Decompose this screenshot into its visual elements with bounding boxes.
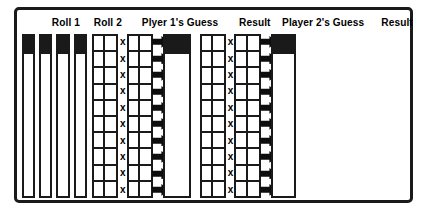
worksheet-cell[interactable] bbox=[236, 166, 247, 182]
worksheet-cell[interactable] bbox=[105, 36, 116, 52]
player-2-guess-left-grid[interactable] bbox=[200, 34, 227, 198]
worksheet-cell[interactable] bbox=[140, 133, 151, 149]
worksheet-cell[interactable] bbox=[105, 133, 116, 149]
worksheet-cell[interactable] bbox=[94, 101, 105, 117]
worksheet-cell[interactable] bbox=[248, 101, 259, 117]
worksheet-cell[interactable] bbox=[94, 36, 105, 52]
worksheet-cell[interactable] bbox=[202, 52, 213, 68]
worksheet-cell[interactable] bbox=[94, 166, 105, 182]
worksheet-cell[interactable] bbox=[248, 182, 259, 196]
worksheet-cell[interactable] bbox=[236, 101, 247, 117]
worksheet-cell[interactable] bbox=[202, 166, 213, 182]
worksheet-cell[interactable] bbox=[129, 133, 140, 149]
worksheet-cell[interactable] bbox=[236, 149, 247, 165]
worksheet-cell[interactable] bbox=[248, 117, 259, 133]
worksheet-cell[interactable] bbox=[202, 149, 213, 165]
worksheet-cell[interactable] bbox=[248, 149, 259, 165]
worksheet-cell[interactable] bbox=[236, 133, 247, 149]
roll-2-column-a[interactable] bbox=[56, 34, 69, 198]
worksheet-cell[interactable] bbox=[202, 133, 213, 149]
worksheet-cell[interactable] bbox=[236, 68, 247, 84]
worksheet-cell[interactable] bbox=[105, 117, 116, 133]
worksheet-cell[interactable] bbox=[24, 52, 33, 54]
worksheet-cell[interactable] bbox=[140, 36, 151, 52]
worksheet-cell[interactable] bbox=[76, 52, 85, 54]
worksheet-cell[interactable] bbox=[94, 133, 105, 149]
worksheet-cell[interactable] bbox=[129, 68, 140, 84]
worksheet-cell[interactable] bbox=[94, 85, 105, 101]
worksheet-cell[interactable] bbox=[213, 149, 224, 165]
worksheet-cell[interactable] bbox=[94, 149, 105, 165]
worksheet-cell[interactable] bbox=[105, 85, 116, 101]
worksheet-cell[interactable] bbox=[105, 182, 116, 196]
worksheet-cell[interactable] bbox=[248, 166, 259, 182]
worksheet-cell[interactable] bbox=[248, 52, 259, 68]
worksheet-cell[interactable] bbox=[213, 101, 224, 117]
worksheet-cell[interactable] bbox=[129, 36, 140, 52]
worksheet-cell[interactable] bbox=[140, 68, 151, 84]
worksheet-cell[interactable] bbox=[213, 166, 224, 182]
worksheet-cell[interactable] bbox=[129, 117, 140, 133]
worksheet-cell[interactable] bbox=[129, 182, 140, 196]
worksheet-cell[interactable] bbox=[129, 166, 140, 182]
worksheet-cell[interactable] bbox=[202, 85, 213, 101]
result-1-column[interactable] bbox=[163, 34, 192, 198]
worksheet-cell[interactable] bbox=[140, 52, 151, 68]
worksheet-cell[interactable] bbox=[273, 52, 295, 54]
worksheet-cell[interactable] bbox=[105, 52, 116, 68]
worksheet-cell[interactable] bbox=[58, 52, 67, 54]
worksheet-cell[interactable] bbox=[140, 166, 151, 182]
worksheet-cell[interactable] bbox=[129, 85, 140, 101]
worksheet-cell[interactable] bbox=[213, 68, 224, 84]
multiply-symbol: x bbox=[228, 149, 234, 165]
worksheet-cell[interactable] bbox=[202, 68, 213, 84]
worksheet-cell[interactable] bbox=[140, 117, 151, 133]
player-2-guess-right-grid[interactable] bbox=[234, 34, 261, 198]
worksheet-cell[interactable] bbox=[213, 36, 224, 52]
worksheet-cell[interactable] bbox=[129, 149, 140, 165]
worksheet-cell[interactable] bbox=[129, 52, 140, 68]
worksheet-cell[interactable] bbox=[213, 85, 224, 101]
worksheet-cell[interactable] bbox=[213, 117, 224, 133]
worksheet-cell[interactable] bbox=[165, 52, 190, 54]
worksheet-cell[interactable] bbox=[236, 85, 247, 101]
worksheet-cell[interactable] bbox=[213, 182, 224, 196]
worksheet-cell[interactable] bbox=[94, 52, 105, 68]
worksheet-cell[interactable] bbox=[236, 52, 247, 68]
worksheet-cell[interactable] bbox=[140, 101, 151, 117]
worksheet-cell[interactable] bbox=[248, 85, 259, 101]
worksheet-cell[interactable] bbox=[248, 133, 259, 149]
worksheet-cell[interactable] bbox=[94, 68, 105, 84]
worksheet-cell[interactable] bbox=[140, 182, 151, 196]
worksheet-cell[interactable] bbox=[94, 117, 105, 133]
player-1-guess-left-grid[interactable] bbox=[92, 34, 119, 198]
worksheet-cell[interactable] bbox=[202, 182, 213, 196]
player-1-guess-right-grid[interactable] bbox=[127, 34, 154, 198]
worksheet-cell[interactable] bbox=[140, 149, 151, 165]
result-2-column[interactable] bbox=[271, 34, 297, 198]
worksheet-cell[interactable] bbox=[236, 117, 247, 133]
worksheet-cell[interactable] bbox=[248, 68, 259, 84]
worksheet-frame: Roll 1 Roll 2 Plyer 1's Guess Result Pla… bbox=[14, 7, 413, 203]
roll-1-column-b[interactable] bbox=[39, 34, 52, 198]
worksheet-cell[interactable] bbox=[105, 101, 116, 117]
worksheet-cell[interactable] bbox=[41, 52, 50, 54]
worksheet-cell[interactable] bbox=[140, 85, 151, 101]
worksheet-cell[interactable] bbox=[105, 166, 116, 182]
worksheet-cell[interactable] bbox=[213, 52, 224, 68]
worksheet-cell[interactable] bbox=[202, 117, 213, 133]
multiply-symbol: x bbox=[120, 83, 126, 99]
roll-1-column-a[interactable] bbox=[22, 34, 35, 198]
worksheet-cell[interactable] bbox=[202, 36, 213, 52]
worksheet-cell[interactable] bbox=[248, 36, 259, 52]
worksheet-cell[interactable] bbox=[213, 133, 224, 149]
worksheet-cell[interactable] bbox=[105, 149, 116, 165]
worksheet-cell[interactable] bbox=[94, 182, 105, 196]
worksheet-cell[interactable] bbox=[236, 182, 247, 196]
roll-2-column-b[interactable] bbox=[74, 34, 87, 198]
worksheet-cell[interactable] bbox=[202, 101, 213, 117]
worksheet-cell[interactable] bbox=[129, 101, 140, 117]
worksheet-cell[interactable] bbox=[105, 68, 116, 84]
worksheet-cell[interactable] bbox=[236, 36, 247, 52]
multiply-symbol: x bbox=[228, 165, 234, 181]
